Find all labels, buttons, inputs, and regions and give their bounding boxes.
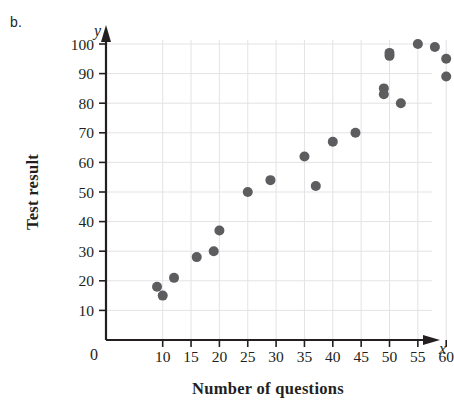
x-axis-title: Number of questions	[192, 379, 344, 398]
data-point	[413, 39, 423, 49]
y-axis-arrowhead	[101, 25, 111, 42]
origin-label: 0	[90, 346, 98, 363]
x-tick-label: 15	[183, 348, 199, 365]
data-point	[441, 72, 451, 82]
y-tick-label: 40	[79, 213, 95, 230]
data-point	[192, 252, 202, 262]
x-tick-label: 40	[325, 348, 341, 365]
y-tick-label: 80	[79, 95, 95, 112]
x-axis-symbol: x	[438, 340, 446, 357]
x-tick-label: 55	[410, 348, 426, 365]
scatter-plot-svg: 102030405060708090100 101520253035404550…	[0, 0, 454, 409]
data-point	[379, 89, 389, 99]
y-axis-title: Test result	[23, 154, 42, 230]
y-axis-symbol: y	[92, 22, 102, 40]
data-point	[169, 273, 179, 283]
scatter-plot: 102030405060708090100 101520253035404550…	[0, 0, 454, 409]
x-tick-label: 45	[353, 348, 369, 365]
y-tick-label: 70	[79, 124, 95, 141]
data-point	[430, 42, 440, 52]
y-tick-label: 60	[79, 154, 95, 171]
data-point	[299, 151, 309, 161]
y-tick-labels: 102030405060708090100	[71, 36, 95, 319]
data-point	[152, 282, 162, 292]
gridlines	[106, 40, 446, 340]
x-tick-labels: 1015202530354045505560	[155, 348, 454, 365]
data-point	[441, 54, 451, 64]
data-point	[311, 181, 321, 191]
y-tick-label: 10	[79, 302, 95, 319]
data-point	[209, 246, 219, 256]
x-tick-label: 30	[268, 348, 284, 365]
data-point	[214, 225, 224, 235]
y-tick-label: 30	[79, 243, 95, 260]
data-point	[243, 187, 253, 197]
data-point	[350, 128, 360, 138]
tick-marks	[99, 44, 446, 347]
data-point	[328, 137, 338, 147]
data-point	[396, 98, 406, 108]
data-points	[152, 39, 451, 301]
data-point	[158, 291, 168, 301]
x-tick-label: 25	[240, 348, 256, 365]
y-tick-label: 100	[71, 36, 95, 53]
y-tick-label: 20	[79, 272, 95, 289]
y-tick-label: 50	[79, 184, 95, 201]
x-tick-label: 35	[297, 348, 313, 365]
y-tick-label: 90	[79, 65, 95, 82]
x-tick-label: 20	[212, 348, 228, 365]
x-tick-label: 10	[155, 348, 171, 365]
data-point	[265, 175, 275, 185]
data-point	[385, 51, 395, 61]
x-axis-arrowhead	[423, 335, 440, 345]
x-tick-label: 50	[382, 348, 398, 365]
